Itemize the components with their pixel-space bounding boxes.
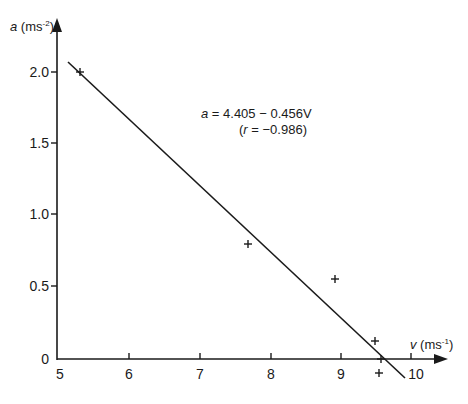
y-tick-label: 2.0 [30, 64, 50, 80]
correlation-coefficient: (r = −0.986) [239, 122, 307, 137]
y-tick-label: 0 [41, 351, 49, 367]
x-tick-label: 9 [337, 366, 345, 382]
plus-marker-icon [244, 240, 252, 248]
y-tick-label: 0.5 [30, 278, 50, 294]
y-axis-title: a (ms-2) [10, 19, 54, 34]
regression-equation: a = 4.405 − 0.456V [201, 106, 312, 121]
x-tick-label: 5 [56, 366, 64, 382]
x-tick-label: 8 [267, 366, 275, 382]
x-tick-label: 6 [125, 366, 133, 382]
x-axis-arrow-icon [434, 354, 448, 364]
x-ticks: 5 6 7 8 9 10 [56, 353, 424, 382]
plus-marker-icon [331, 275, 339, 283]
plus-marker-icon [377, 355, 385, 363]
y-tick-label: 1.5 [30, 135, 50, 151]
plus-marker-icon [371, 337, 379, 345]
plus-marker-icon [375, 369, 383, 377]
x-tick-label: 10 [408, 366, 424, 382]
x-axis-title: v (ms-1) [410, 337, 453, 352]
y-tick-label: 1.0 [30, 206, 50, 222]
x-tick-label: 7 [196, 366, 204, 382]
y-ticks: 2.0 1.5 1.0 0.5 0 [30, 64, 57, 367]
y-axis [52, 18, 62, 360]
scatter-chart: 2.0 1.5 1.0 0.5 0 5 6 7 8 9 10 a (ms-2) … [0, 0, 468, 404]
